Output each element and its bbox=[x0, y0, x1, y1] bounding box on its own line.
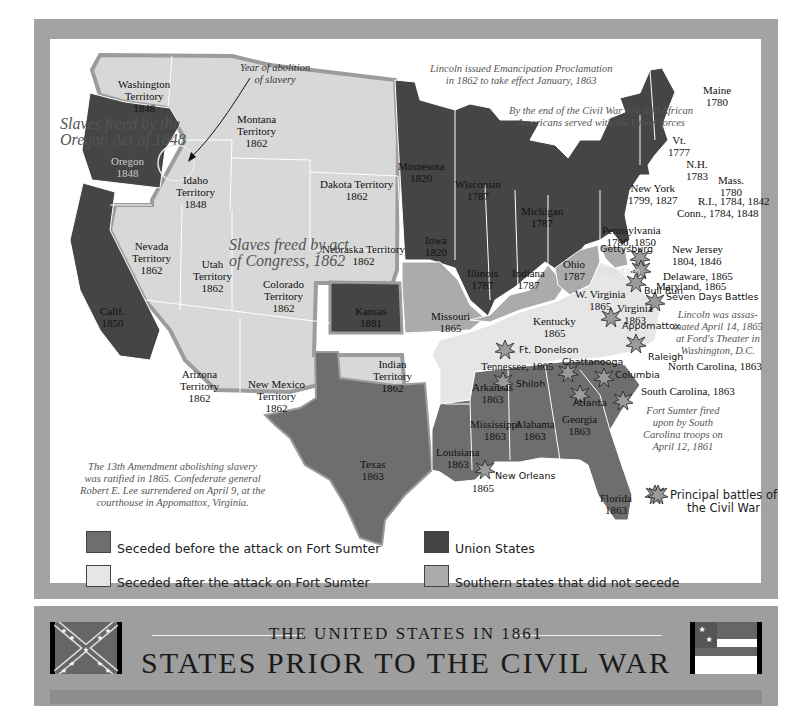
label-texas: Texas1863 bbox=[360, 458, 386, 482]
label-kentucky: Kentucky1865 bbox=[533, 315, 576, 339]
label-new-mexico: New MexicoTerritory1862 bbox=[248, 378, 305, 414]
note-year-abolition: Year of abolitionof slavery bbox=[240, 62, 310, 86]
map-title: STATES PRIOR TO THE CIVIL WAR bbox=[34, 646, 778, 680]
label-nevada: NevadaTerritory1862 bbox=[132, 240, 171, 276]
label-washington: WashingtonTerritory1848 bbox=[118, 78, 170, 114]
legend-swatch bbox=[86, 565, 111, 587]
note-african-americans: By the end of the Civil War 186,000 Afri… bbox=[509, 105, 693, 129]
label-arkansas: Arkansas1863 bbox=[472, 381, 513, 405]
battle-atlanta: Atlanta bbox=[573, 398, 607, 408]
note-emancipation: Lincoln issued Emancipation Proclamation… bbox=[430, 63, 612, 87]
label-new-york: New York1799, 1827 bbox=[628, 182, 678, 206]
svg-text:★: ★ bbox=[698, 625, 705, 634]
battle-appomattox: Appomattox bbox=[622, 321, 680, 331]
title-banner: ★★★ ★★ ★★ ★★ THE UNITED STATES IN 1861 S… bbox=[34, 606, 778, 706]
label-maine: Maine1780 bbox=[703, 84, 731, 108]
label-new-jersey: New Jersey1804, 1846 bbox=[672, 243, 723, 267]
battle-new-orleans: New Orleans bbox=[495, 471, 555, 481]
label-montana: MontanaTerritory1862 bbox=[237, 113, 276, 149]
legend-seceded-after: Seceded after the attack on Fort Sumter bbox=[86, 565, 370, 587]
label-louisiana: Louisiana1863 bbox=[436, 446, 479, 470]
label-california: Calif.1850 bbox=[100, 305, 125, 329]
legend-principal-battles: Principal battles ofthe Civil War bbox=[670, 489, 777, 515]
battle-antietam: Antietam bbox=[597, 266, 641, 276]
banner-bottom-strip bbox=[50, 690, 762, 704]
label-ohio: Ohio1787 bbox=[563, 258, 585, 282]
label-iowa: Iowa1820 bbox=[425, 234, 447, 258]
note-13th-amendment: The 13th Amendment abolishing slaverywas… bbox=[80, 461, 265, 509]
legend-swatch bbox=[424, 565, 449, 587]
label-oregon: Oregon1848 bbox=[111, 155, 144, 179]
battle-columbia: Columbia bbox=[615, 370, 660, 380]
label-new-hampshire: N.H.1783 bbox=[686, 158, 708, 182]
label-michigan: Michigan1787 bbox=[521, 205, 563, 229]
label-idaho: IdahoTerritory1848 bbox=[176, 174, 215, 210]
battle-chattanooga: Chattanooga bbox=[562, 357, 623, 367]
label-rhode-island: R.I., 1784, 1842 bbox=[698, 195, 770, 207]
label-indiana: Indiana1787 bbox=[512, 267, 545, 291]
legend-swatch bbox=[86, 531, 111, 553]
label-louisiana-year: 1865 bbox=[472, 482, 494, 494]
legend-seceded-before: Seceded before the attack on Fort Sumter bbox=[86, 531, 380, 553]
label-georgia: Georgia1863 bbox=[562, 413, 597, 437]
battle-gettysburg: Gettysburg bbox=[600, 244, 653, 254]
label-mississippi: Mississippi1863 bbox=[470, 418, 520, 442]
label-arizona: ArizonaTerritory1862 bbox=[180, 368, 219, 404]
legend-union: Union States bbox=[424, 531, 535, 553]
label-south-carolina: South Carolina, 1863 bbox=[641, 385, 735, 397]
battle-ft-donelson: Ft. Donelson bbox=[519, 345, 579, 355]
label-colorado: ColoradoTerritory1862 bbox=[263, 278, 304, 314]
label-tennessee: Tennessee, 1865 bbox=[481, 360, 554, 372]
label-alabama: Alabama1863 bbox=[515, 418, 555, 442]
label-dakota: Dakota Territory1862 bbox=[320, 178, 393, 202]
label-florida: Florida1863 bbox=[600, 492, 632, 516]
stars-and-bars-flag: ★★ bbox=[690, 622, 762, 674]
label-kansas: Kansas1881 bbox=[355, 305, 387, 329]
note-oregon-act: Slaves freed by theOregon Act of 1848 bbox=[60, 116, 186, 148]
label-vermont: Vt.1777 bbox=[668, 134, 690, 158]
label-utah: UtahTerritory1862 bbox=[193, 258, 232, 294]
legend-did-not-secede: Southern states that did not secede bbox=[424, 565, 680, 587]
battle-shiloh: Shiloh bbox=[516, 379, 545, 389]
label-missouri: Missouri1865 bbox=[431, 310, 470, 334]
map-subtitle: THE UNITED STATES IN 1861 bbox=[34, 624, 778, 644]
note-act-of-congress: Slaves freed by actof Congress, 1862 bbox=[229, 237, 349, 269]
legend-swatch bbox=[424, 531, 449, 553]
label-wisconsin: Wisconsin1787 bbox=[455, 178, 501, 202]
label-connecticut: Conn., 1784, 1848 bbox=[677, 207, 759, 219]
note-lincoln-assassinated: Lincoln was assas-inated April 14, 1865a… bbox=[673, 309, 763, 357]
battle-seven-days: Seven Days Battles bbox=[666, 292, 758, 302]
svg-text:★: ★ bbox=[705, 635, 712, 644]
label-indian-territory: IndianTerritory1862 bbox=[373, 358, 412, 394]
note-fort-sumter: Fort Sumter firedupon by SouthCarolina t… bbox=[643, 405, 723, 453]
label-minnesota: Minnesota1820 bbox=[398, 160, 444, 184]
label-illinois: Illinois1787 bbox=[467, 267, 498, 291]
battle-burst-icon bbox=[647, 484, 669, 506]
